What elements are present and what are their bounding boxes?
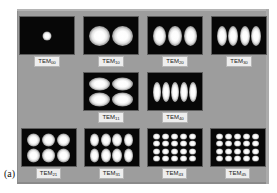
mode-label-prefix: TEM [38, 58, 51, 64]
mode-label-subscript: 21 [52, 172, 57, 177]
mode-lobe [243, 133, 251, 139]
mode-cell: TEM11 [84, 73, 138, 122]
mode-lobe [234, 133, 242, 139]
mode-image-frame [148, 129, 202, 166]
mode-lobe [171, 133, 179, 139]
mode-intensity-pattern [153, 133, 197, 162]
mode-lobe [180, 82, 188, 102]
mode-row-3: TEM21TEM31TEM43TEM45 [17, 129, 269, 178]
mode-label-prefix: TEM [102, 58, 115, 64]
mode-lobe [252, 133, 260, 139]
mode-lobe [184, 26, 197, 46]
mode-label-prefix: TEM [166, 114, 179, 120]
mode-lobe [168, 26, 181, 46]
mode-cell: TEM30 [212, 17, 266, 66]
mode-lobe [89, 77, 110, 91]
mode-image-frame [85, 129, 139, 166]
mode-intensity-pattern [89, 77, 133, 106]
mode-lobe [162, 82, 170, 102]
mode-lobe [171, 148, 179, 154]
mode-label: TEM21 [37, 169, 61, 178]
mode-lobe [153, 26, 166, 46]
mode-lobe [189, 141, 197, 147]
mode-lobe [243, 141, 251, 147]
mode-lobe [234, 141, 242, 147]
mode-label-subscript: 30 [243, 60, 248, 65]
mode-intensity-pattern [216, 133, 260, 162]
mode-intensity-pattern [89, 26, 133, 46]
mode-image-frame [20, 17, 74, 54]
mode-lobe [124, 149, 134, 163]
plate-highlight-edge [17, 9, 269, 11]
mode-image-frame [148, 17, 202, 54]
mode-lobe [27, 133, 40, 147]
mode-label-subscript: 40 [179, 116, 184, 121]
mode-label: TEM11 [99, 113, 122, 122]
mode-lobe [189, 156, 197, 162]
mode-gallery-plate: TEM00TEM10TEM20TEM30 TEM11TEM40 TEM21TEM… [17, 9, 269, 184]
panel-caption: (a) [4, 168, 15, 179]
mode-lobe [153, 156, 161, 162]
mode-lobe [243, 156, 251, 162]
mode-label-prefix: TEM [229, 170, 242, 176]
mode-lobe [243, 148, 251, 154]
mode-label-prefix: TEM [166, 170, 179, 176]
mode-lobe [189, 133, 197, 139]
mode-lobe [42, 133, 55, 147]
mode-label-subscript: 10 [115, 60, 120, 65]
mode-label-prefix: TEM [166, 58, 179, 64]
mode-lobe [225, 156, 233, 162]
mode-lobe [112, 26, 133, 46]
plate-shadow-edge [17, 182, 269, 184]
mode-intensity-pattern [153, 82, 197, 102]
mode-lobe [112, 133, 122, 147]
mode-lobe [112, 149, 122, 163]
mode-lobe [189, 82, 197, 102]
mode-cell: TEM00 [20, 17, 74, 66]
mode-intensity-pattern [90, 133, 134, 162]
mode-image-frame [212, 17, 266, 54]
mode-label: TEM31 [100, 169, 124, 178]
mode-lobe [216, 133, 224, 139]
mode-label-prefix: TEM [103, 170, 116, 176]
mode-lobe [251, 26, 261, 46]
mode-cell: TEM20 [148, 17, 202, 66]
mode-image-frame [148, 73, 202, 110]
mode-label-subscript: 11 [115, 116, 120, 121]
mode-lobe [234, 156, 242, 162]
mode-label-subscript: 20 [179, 60, 184, 65]
mode-lobe [189, 148, 197, 154]
mode-lobe [225, 148, 233, 154]
mode-lobe [42, 149, 55, 163]
mode-label-prefix: TEM [230, 58, 243, 64]
mode-cell: TEM21 [22, 129, 76, 178]
mode-label-prefix: TEM [40, 170, 53, 176]
mode-lobe [153, 141, 161, 147]
mode-lobe [153, 148, 161, 154]
mode-label: TEM45 [226, 169, 250, 178]
mode-lobe [171, 156, 179, 162]
mode-lobe [112, 77, 133, 91]
mode-lobe [153, 82, 161, 102]
mode-cell: TEM45 [211, 129, 265, 178]
mode-intensity-pattern [217, 26, 261, 46]
mode-lobe [225, 141, 233, 147]
mode-lobe [234, 148, 242, 154]
mode-lobe [90, 149, 100, 163]
mode-lobe [180, 141, 188, 147]
mode-lobe [225, 133, 233, 139]
mode-lobe [180, 133, 188, 139]
mode-label: TEM10 [99, 57, 123, 66]
mode-label-prefix: TEM [102, 114, 115, 120]
mode-label-subscript: 45 [241, 172, 246, 177]
mode-intensity-pattern [153, 26, 197, 46]
mode-lobe [43, 31, 52, 40]
mode-image-frame [22, 129, 76, 166]
mode-image-frame [84, 73, 138, 110]
mode-cell: TEM31 [85, 129, 139, 178]
mode-lobe [153, 133, 161, 139]
figure-root: TEM00TEM10TEM20TEM30 TEM11TEM40 TEM21TEM… [0, 0, 277, 193]
mode-row-1: TEM00TEM10TEM20TEM30 [17, 17, 269, 66]
mode-lobe [252, 148, 260, 154]
mode-label: TEM43 [163, 169, 187, 178]
